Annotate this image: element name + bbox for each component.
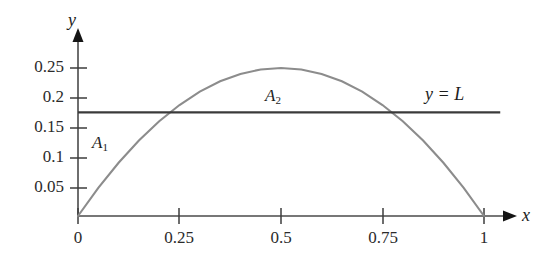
chart-plot-area (0, 0, 546, 264)
x-tick-label-0: 0 (48, 228, 108, 248)
x-tick-label-0.25: 0.25 (149, 228, 209, 248)
y-tick-label-0.15: 0.15 (0, 117, 64, 137)
region-label-a2: A2 (265, 86, 281, 106)
region-label-a1-base: A (92, 133, 102, 152)
region-label-a2-base: A (265, 86, 275, 105)
x-tick-label-0.5: 0.5 (251, 228, 311, 248)
x-tick-label-0.75: 0.75 (353, 228, 413, 248)
y-tick-label-0.1: 0.1 (0, 147, 64, 167)
figure-canvas: y x 0.25 0.2 0.15 0.1 0.05 0 0.25 0.5 0.… (0, 0, 546, 264)
region-label-a1-sub: 1 (102, 141, 108, 153)
x-tick-label-1: 1 (454, 228, 514, 248)
y-tick-label-0.05: 0.05 (0, 177, 64, 197)
level-line-label: y = L (425, 84, 464, 105)
x-axis-label: x (522, 205, 530, 226)
region-label-a1: A1 (92, 133, 108, 153)
y-tick-label-0.2: 0.2 (0, 87, 64, 107)
y-axis-label: y (68, 10, 76, 31)
x-axis-arrow-icon (503, 211, 517, 222)
parabola-curve (78, 68, 484, 216)
y-tick-label-0.25: 0.25 (0, 57, 64, 77)
region-label-a2-sub: 2 (275, 94, 281, 106)
